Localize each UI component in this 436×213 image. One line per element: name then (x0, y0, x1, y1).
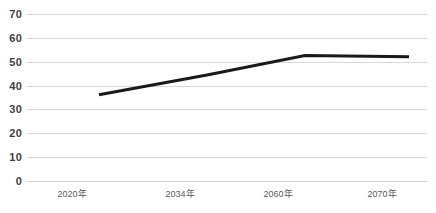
series-layer (27, 14, 436, 213)
gridline-0 (27, 181, 427, 182)
plot-area (27, 14, 427, 181)
y-tick-label-10: 10 (9, 152, 22, 163)
gridline-50 (27, 62, 427, 63)
y-tick-label-70: 70 (9, 9, 22, 20)
line-chart: 010203040506070 2020年2034年2060年2070年 (0, 0, 436, 213)
x-tick-label-1: 2034年 (165, 190, 194, 199)
y-tick-label-30: 30 (9, 104, 22, 115)
gridline-10 (27, 157, 427, 158)
y-tick-label-50: 50 (9, 57, 22, 68)
gridline-70 (27, 14, 427, 15)
y-axis-tick-labels: 010203040506070 (0, 0, 22, 213)
y-tick-label-60: 60 (9, 33, 22, 44)
gridline-60 (27, 38, 427, 39)
y-tick-label-40: 40 (9, 81, 22, 92)
gridline-30 (27, 109, 427, 110)
gridline-20 (27, 133, 427, 134)
y-tick-label-0: 0 (16, 176, 22, 187)
x-tick-label-2: 2060年 (263, 190, 292, 199)
gridline-40 (27, 86, 427, 87)
x-tick-label-0: 2020年 (57, 190, 86, 199)
y-tick-label-20: 20 (9, 128, 22, 139)
x-tick-label-3: 2070年 (367, 190, 396, 199)
